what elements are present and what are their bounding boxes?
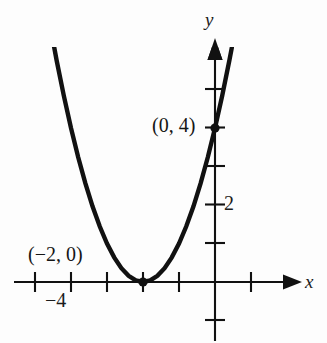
x-axis-arrow-icon — [283, 275, 302, 290]
point-marker-0-4 — [210, 123, 219, 132]
parabola-curve — [48, 12, 232, 282]
x-axis-label: x — [305, 272, 313, 291]
curve-top-mask — [0, 0, 327, 47]
y-tick-label-2: 2 — [224, 193, 234, 213]
point-label-minus2-0: (−2, 0) — [28, 244, 83, 264]
x-tick-label-minus4: −4 — [45, 290, 66, 310]
y-axis-label: y — [205, 10, 213, 29]
point-marker-minus2-0 — [138, 277, 147, 286]
graph-figure: y x 2 −4 (0, 4) (−2, 0) — [0, 0, 327, 343]
point-label-0-4: (0, 4) — [152, 115, 195, 135]
